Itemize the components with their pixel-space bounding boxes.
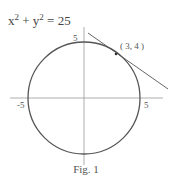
figure-caption: Fig. 1 [0,163,172,175]
label-right: 5 [144,100,149,110]
tangent-point [115,53,118,56]
label-left: -5 [17,100,25,110]
label-point: ( 3, 4 ) [120,41,144,51]
equation: x2 + y2 = 25 [8,12,71,29]
label-top: 5 [73,33,78,43]
